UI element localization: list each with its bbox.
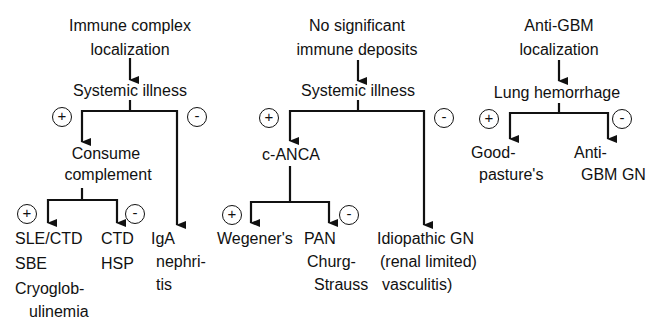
- outcome-goodpastures-line2: pasture's: [479, 166, 543, 184]
- outcome-ctd: CTD: [101, 230, 134, 248]
- immune-complex-title-line2: localization: [90, 41, 169, 59]
- outcome-hsp: HSP: [101, 255, 134, 273]
- anti-gbm-title-line2: localization: [519, 41, 598, 59]
- outcome-iga-nephritis-line1: IgA: [151, 230, 175, 248]
- outcome-pan: PAN: [304, 230, 336, 248]
- outcome-cryoglobulinemia-line2: ulinemia: [29, 303, 89, 321]
- no-deposits-systemic-illness: Systemic illness: [301, 82, 415, 100]
- outcome-cryoglobulinemia-line1: Cryoglob-: [15, 280, 84, 298]
- consume-complement-line2: complement: [64, 166, 151, 184]
- plus-sign-icon: +: [222, 205, 242, 225]
- outcome-idiopathic-gn-line2: (renal limited): [380, 253, 477, 271]
- plus-sign-icon: +: [259, 108, 279, 128]
- minus-sign-icon: -: [125, 204, 145, 224]
- outcome-sbe: SBE: [15, 255, 47, 273]
- outcome-idiopathic-gn-line1: Idiopathic GN: [377, 230, 474, 248]
- no-deposits-title-line1: No significant: [309, 17, 405, 35]
- immune-complex-title-line1: Immune complex: [69, 17, 191, 35]
- plus-sign-icon: +: [479, 109, 499, 129]
- outcome-anti-gbm-gn-line1: Anti-: [574, 144, 607, 162]
- outcome-wegeners: Wegener's: [217, 230, 293, 248]
- plus-sign-icon: +: [17, 204, 37, 224]
- outcome-idiopathic-gn-line3: vasculitis): [382, 276, 452, 294]
- minus-sign-icon: -: [339, 205, 359, 225]
- outcome-iga-nephritis-line2: nephri-: [156, 253, 206, 271]
- consume-complement-line1: Consume: [72, 145, 140, 163]
- anti-gbm-title-line1: Anti-GBM: [524, 17, 593, 35]
- outcome-sle-ctd: SLE/CTD: [15, 230, 83, 248]
- minus-sign-icon: -: [434, 108, 454, 128]
- immune-complex-systemic-illness: Systemic illness: [73, 82, 187, 100]
- minus-sign-icon: -: [612, 109, 632, 129]
- plus-sign-icon: +: [52, 107, 72, 127]
- no-deposits-title-line2: immune deposits: [297, 41, 418, 59]
- outcome-anti-gbm-gn-line2: GBM GN: [581, 166, 646, 184]
- c-anca: c-ANCA: [262, 146, 320, 164]
- outcome-goodpastures-line1: Good-: [471, 144, 515, 162]
- lung-hemorrhage: Lung hemorrhage: [494, 84, 620, 102]
- outcome-churg-strauss-line1: Churg-: [307, 253, 356, 271]
- outcome-churg-strauss-line2: Strauss: [314, 276, 368, 294]
- outcome-iga-nephritis-line3: tis: [156, 276, 172, 294]
- minus-sign-icon: -: [187, 107, 207, 127]
